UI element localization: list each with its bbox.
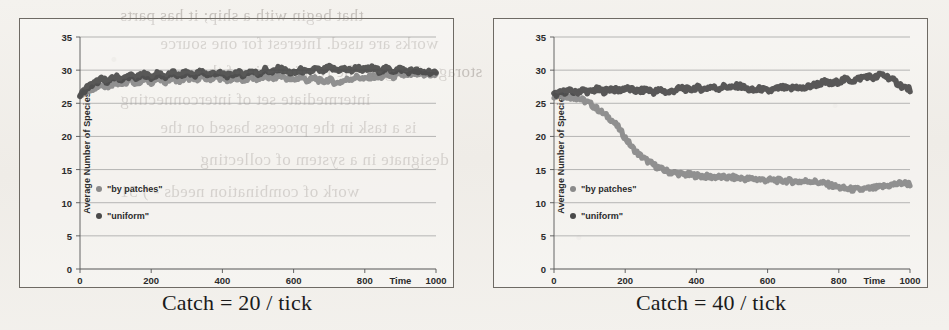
figure-two-panel-charts: Average Number of Species051015202530350… [0,0,949,330]
legend-label: "by patches" [107,184,163,194]
chart-panel-left: Average Number of Species051015202530350… [0,0,474,330]
chart-panel-right: Average Number of Species051015202530350… [474,0,948,330]
panel-caption: Catch = 20 / tick [0,290,474,316]
legend-label: "by patches" [581,184,637,194]
plot-area [494,19,929,289]
series-by-patches [554,95,910,191]
legend-item-uniform[interactable]: "uniform" [96,211,149,221]
legend-marker-icon [570,213,576,219]
series-path [554,74,910,96]
legend-marker-icon [96,186,102,192]
legend-label: "uniform" [581,211,623,221]
chart-frame: Average Number of Species051015202530350… [493,18,928,288]
legend-label: "uniform" [107,211,149,221]
legend-item-by-patches[interactable]: "by patches" [96,184,163,194]
chart-frame: Average Number of Species051015202530350… [19,18,454,288]
legend-marker-icon [570,186,576,192]
legend-item-uniform[interactable]: "uniform" [570,211,623,221]
legend-item-by-patches[interactable]: "by patches" [570,184,637,194]
legend-marker-icon [96,213,102,219]
panel-caption: Catch = 40 / tick [474,290,948,316]
series-uniform [554,74,910,96]
plot-area [20,19,455,289]
series-path [554,95,910,191]
